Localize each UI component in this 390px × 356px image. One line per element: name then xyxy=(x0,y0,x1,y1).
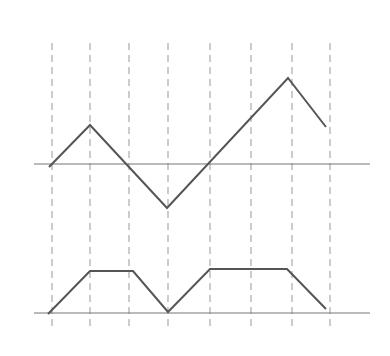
upper-function-curve xyxy=(49,78,326,208)
diagram-canvas xyxy=(0,0,390,356)
dashed-gridlines xyxy=(52,43,330,328)
